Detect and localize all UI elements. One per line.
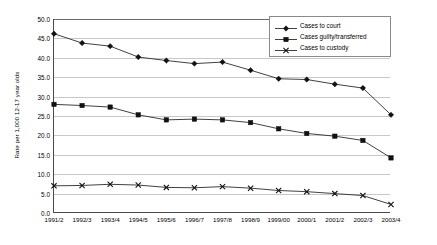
- legend-item[interactable]: Cases guilty/transferred: [273, 31, 386, 42]
- x-axis-tick-label: 2003/4: [382, 216, 401, 224]
- y-axis-tick-label: 35.0: [38, 74, 50, 81]
- data-point-marker-diamond: [332, 81, 337, 86]
- data-point-marker-square: [389, 156, 393, 160]
- data-point-marker-square: [220, 118, 224, 122]
- data-point-marker-square: [108, 105, 112, 109]
- series-cases-to-custody: [51, 182, 393, 207]
- y-axis-title: Rate per 1,000 12-17 year olds: [10, 10, 24, 220]
- data-point-marker-diamond: [304, 77, 309, 82]
- y-axis-tick-label: 40.0: [38, 54, 50, 61]
- data-point-marker-square: [305, 131, 309, 135]
- data-point-marker-square: [192, 117, 196, 121]
- y-axis-tick-label: 10.0: [38, 171, 50, 178]
- legend-marker-square-icon: [273, 31, 299, 42]
- x-axis-tick-label: 2001/2: [325, 216, 344, 224]
- y-axis-tick-label: 45.0: [38, 35, 50, 42]
- legend-item-label: Cases to court: [299, 20, 341, 31]
- legend-item[interactable]: Cases to custody: [273, 42, 386, 53]
- legend-item-label: Cases to custody: [299, 42, 348, 53]
- legend-item-label: Cases guilty/transferred: [299, 31, 367, 42]
- data-point-marker-square: [361, 138, 365, 142]
- y-axis-tick-label: 50.0: [38, 16, 50, 23]
- x-axis-tick-label: 1994/5: [129, 216, 148, 224]
- data-point-marker-diamond: [248, 68, 253, 73]
- data-point-marker-square: [164, 118, 168, 122]
- data-point-marker-square: [248, 120, 252, 124]
- x-axis-tick-label: 1991/2: [45, 216, 64, 224]
- x-axis-tick-label: 1998/9: [241, 216, 260, 224]
- x-axis-tick-label: 1999/00: [267, 216, 289, 224]
- y-axis-tick-label: 25.0: [38, 113, 50, 120]
- data-point-marker-square: [333, 134, 337, 138]
- data-point-marker-diamond: [220, 59, 225, 64]
- x-axis-tick-label: 2002/3: [353, 216, 372, 224]
- y-axis-tick-label: 30.0: [38, 93, 50, 100]
- x-axis-tick-label: 1993/4: [101, 216, 120, 224]
- legend-marker-cross-icon: [273, 42, 299, 53]
- x-axis-tick-label: 1995/6: [157, 216, 176, 224]
- x-axis-tick-label: 1992/3: [73, 216, 92, 224]
- data-point-marker-square: [52, 102, 56, 106]
- x-axis-tick-label: 2000/1: [297, 216, 316, 224]
- line-chart: Rate per 1,000 12-17 year olds 50.045.04…: [0, 0, 437, 245]
- series-line: [54, 104, 391, 158]
- legend-marker-diamond-icon: [273, 20, 299, 31]
- y-axis-tick-label: 15.0: [38, 151, 50, 158]
- data-point-marker-diamond: [164, 58, 169, 63]
- x-axis-tick-label: 1997/8: [213, 216, 232, 224]
- data-point-marker-diamond: [51, 31, 56, 36]
- legend: Cases to courtCases guilty/transferredCa…: [269, 16, 391, 57]
- x-axis-tick-label: 1996/7: [185, 216, 204, 224]
- data-point-marker-square: [136, 113, 140, 117]
- legend-item[interactable]: Cases to court: [273, 20, 386, 31]
- y-axis-tick-label: 20.0: [38, 132, 50, 139]
- data-point-marker-square: [80, 103, 84, 107]
- data-point-marker-diamond: [192, 61, 197, 66]
- data-point-marker-cross: [388, 202, 393, 207]
- data-point-marker-diamond: [276, 76, 281, 81]
- series-cases-guilty-transferred: [52, 102, 393, 160]
- data-point-marker-square: [276, 127, 280, 131]
- data-point-marker-diamond: [136, 54, 141, 59]
- data-point-marker-diamond: [107, 43, 112, 48]
- data-point-marker-diamond: [79, 40, 84, 45]
- y-axis-tick-label: 5.0: [41, 190, 50, 197]
